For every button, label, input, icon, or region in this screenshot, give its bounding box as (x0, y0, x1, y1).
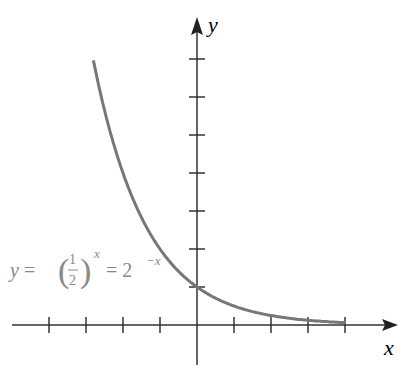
svg-text:1: 1 (69, 252, 76, 267)
axes (12, 30, 385, 365)
svg-text:2: 2 (69, 273, 76, 288)
svg-text:): ) (80, 252, 91, 290)
svg-text:= 2: = 2 (106, 259, 132, 281)
y-axis-label: y (206, 12, 218, 37)
svg-text:(: ( (58, 252, 69, 290)
svg-text:−x: −x (146, 253, 161, 268)
svg-text:y =: y = (8, 259, 35, 282)
x-axis-label: x (383, 335, 394, 360)
curve-line (93, 60, 345, 322)
svg-text:x: x (93, 246, 100, 261)
plot-svg: y x y = ( 1 2 ) x = 2 −x (0, 0, 408, 373)
chart: y x y = ( 1 2 ) x = 2 −x (0, 0, 408, 373)
equation-annotation: y = ( 1 2 ) x = 2 −x (8, 246, 161, 290)
